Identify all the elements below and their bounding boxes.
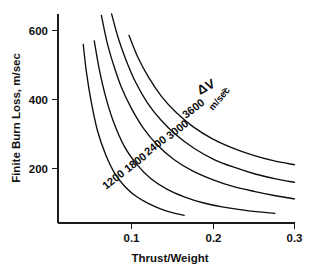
y-axis-title: Finite Burn Loss, m/sec: [10, 53, 22, 183]
x-tick-label-0.3: 0.3: [287, 232, 303, 244]
x-tick-label-0.2: 0.2: [206, 232, 222, 244]
curve-label-3600: 3600: [180, 96, 207, 121]
x-axis-title: Thrust/Weight: [131, 252, 208, 264]
x-tick-label-0.1: 0.1: [124, 232, 141, 244]
curve-label-1200: 1200: [100, 167, 127, 192]
curve-label-2400: 2400: [142, 133, 169, 158]
axes-group: [58, 14, 295, 223]
y-tick-label-600: 600: [29, 25, 48, 37]
y-tick-group: 600 400 200: [29, 25, 58, 175]
x-tick-group: 0.1 0.2 0.3: [124, 223, 303, 244]
finite-burn-loss-chart: 600 400 200 0.1 0.2 0.3 Thrust/Weight Fi…: [0, 0, 315, 272]
chart-figure: 600 400 200 0.1 0.2 0.3 Thrust/Weight Fi…: [0, 0, 315, 272]
y-tick-label-200: 200: [29, 163, 48, 175]
y-tick-label-400: 400: [29, 94, 48, 106]
curve-label-1800: 1800: [122, 150, 149, 175]
delta-v-annotation: ΔV =: [194, 76, 228, 98]
